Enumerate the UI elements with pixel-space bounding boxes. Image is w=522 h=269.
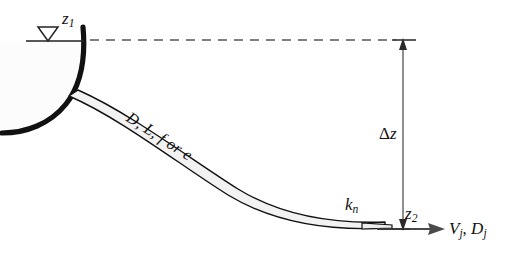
label-water-surface-elevation: z1 — [62, 10, 74, 30]
reservoir-body — [0, 41, 83, 133]
hydraulics-diagram: z1 Δz z2 kn Vj, Dj D, L, f or e — [0, 0, 522, 269]
pipe-conduit — [69, 90, 385, 229]
water-surface-triangle-icon — [38, 27, 58, 41]
label-jet-velocity-diameter: Vj, Dj — [449, 220, 487, 240]
label-elevation-difference: Δz — [379, 125, 397, 142]
right-arrow-icon — [428, 223, 445, 235]
label-outlet-elevation: z2 — [405, 205, 417, 225]
diagram-canvas — [0, 0, 522, 269]
label-nozzle-loss-coefficient: kn — [345, 196, 358, 216]
